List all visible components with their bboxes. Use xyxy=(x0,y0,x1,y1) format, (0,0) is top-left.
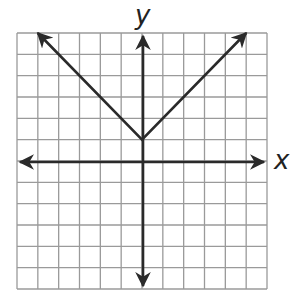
x-axis-label: x xyxy=(274,145,289,175)
y-axis-label: y xyxy=(135,0,150,30)
coordinate-plane xyxy=(0,0,302,304)
axes xyxy=(20,36,264,286)
